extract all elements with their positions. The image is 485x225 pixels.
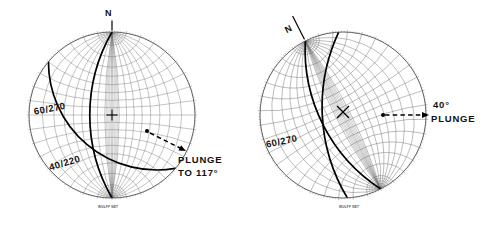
- plunge-annotation-line1-left: PLUNGE: [178, 155, 222, 166]
- north-label-left: N: [105, 8, 112, 18]
- stereonet-figure: N 60/270 40/220 PLUNGE TO 117° WULFF NET…: [0, 0, 485, 225]
- plunge-annotation-line1-right: 40°: [433, 100, 450, 111]
- stereonet-panel-right: N 60/270 40° PLUNGE WULFF NET: [243, 0, 485, 225]
- stereonet-panel-left: N 60/270 40/220 PLUNGE TO 117° WULFF NET: [0, 0, 242, 225]
- plunge-annotation-line2-right: PLUNGE: [431, 114, 475, 125]
- net-caption-left: WULFF NET: [98, 206, 118, 210]
- plunge-annotation-line2-left: TO 117°: [178, 168, 218, 179]
- net-caption-right: WULFF NET: [339, 206, 359, 210]
